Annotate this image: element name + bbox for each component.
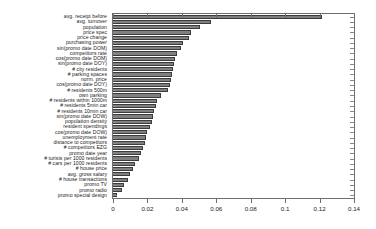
bar	[113, 25, 200, 29]
y-tick-mark	[113, 138, 117, 139]
x-tick-label: 0.04	[176, 205, 188, 212]
y-tick-mark-right	[350, 32, 354, 33]
bar	[113, 151, 141, 155]
y-tick-mark	[113, 111, 117, 112]
x-tick-mark-top	[216, 14, 217, 18]
y-tick-mark-right	[350, 132, 354, 133]
x-tick-mark-top	[147, 14, 148, 18]
x-axis-ticks-top	[112, 13, 355, 18]
y-tick-mark-right	[350, 190, 354, 191]
y-tick-mark	[113, 38, 117, 39]
bar	[113, 57, 175, 61]
y-tick-mark-right	[350, 38, 354, 39]
bar	[113, 120, 152, 124]
y-tick-mark	[113, 127, 117, 128]
y-tick-mark	[113, 174, 117, 175]
y-tick-mark	[113, 153, 117, 154]
y-tick-mark	[113, 117, 117, 118]
x-tick-label: 0	[111, 205, 114, 212]
y-tick-mark-right	[350, 180, 354, 181]
y-tick-mark-right	[350, 117, 354, 118]
bar	[113, 104, 156, 108]
y-tick-mark-right	[350, 90, 354, 91]
y-tick-mark-right	[350, 85, 354, 86]
y-tick-mark-right	[350, 148, 354, 149]
x-tick-mark-top	[354, 14, 355, 18]
y-tick-mark	[113, 48, 117, 49]
y-tick-mark-right	[350, 106, 354, 107]
bar	[113, 125, 150, 129]
y-tick-mark	[113, 169, 117, 170]
bar	[113, 62, 174, 66]
y-tick-mark-right	[350, 48, 354, 49]
x-tick-mark	[354, 199, 355, 203]
feature-importance-chart: avg. receipt beforeavg. turnoverpopulati…	[0, 0, 376, 229]
y-tick-mark-right	[350, 195, 354, 196]
y-tick-mark	[113, 32, 117, 33]
bar	[113, 51, 177, 55]
y-tick-mark-right	[350, 111, 354, 112]
y-tick-mark-right	[350, 69, 354, 70]
x-tick-label: 0.14	[348, 205, 360, 212]
x-tick-label: 0.1	[281, 205, 290, 212]
y-tick-mark	[113, 64, 117, 65]
y-tick-mark	[113, 95, 117, 96]
y-tick-mark-right	[350, 101, 354, 102]
bar	[113, 141, 145, 145]
x-tick-mark-top	[251, 14, 252, 18]
x-tick-mark-top	[113, 14, 114, 18]
y-tick-mark-right	[350, 53, 354, 54]
y-tick-mark	[113, 22, 117, 23]
y-tick-mark	[113, 132, 117, 133]
y-tick-mark-right	[350, 122, 354, 123]
y-tick-mark	[113, 195, 117, 196]
bar	[113, 67, 173, 71]
y-tick-mark	[113, 180, 117, 181]
y-axis-label: promo special design	[58, 193, 107, 198]
x-tick-mark-top	[320, 14, 321, 18]
x-tick-mark	[113, 199, 114, 203]
bar	[113, 114, 153, 118]
y-tick-mark-right	[350, 27, 354, 28]
y-axis-labels: avg. receipt beforeavg. turnoverpopulati…	[0, 14, 110, 198]
y-tick-mark	[113, 43, 117, 44]
y-tick-mark-right	[350, 74, 354, 75]
y-tick-mark-right	[350, 95, 354, 96]
x-axis-ticks: 00.020.040.060.080.10.120.14	[112, 199, 355, 219]
y-tick-mark	[113, 85, 117, 86]
x-tick-mark	[216, 199, 217, 203]
y-tick-mark	[113, 185, 117, 186]
x-tick-label: 0.12	[314, 205, 326, 212]
y-tick-mark	[113, 74, 117, 75]
y-tick-mark-right	[350, 80, 354, 81]
y-tick-mark-right	[350, 143, 354, 144]
bar	[113, 78, 171, 82]
bar	[113, 20, 211, 24]
y-tick-mark	[113, 90, 117, 91]
x-tick-mark	[285, 199, 286, 203]
x-tick-mark	[147, 199, 148, 203]
y-tick-mark-right	[350, 138, 354, 139]
y-tick-mark	[113, 164, 117, 165]
bars-layer	[113, 14, 354, 198]
y-tick-mark	[113, 80, 117, 81]
y-tick-mark	[113, 190, 117, 191]
y-tick-mark	[113, 59, 117, 60]
bar	[113, 146, 143, 150]
y-tick-mark-right	[350, 59, 354, 60]
y-tick-mark	[113, 106, 117, 107]
y-tick-mark-right	[350, 169, 354, 170]
y-tick-mark-right	[350, 64, 354, 65]
x-tick-mark	[320, 199, 321, 203]
x-tick-label: 0.06	[210, 205, 222, 212]
x-tick-mark	[251, 199, 252, 203]
x-tick-mark-top	[285, 14, 286, 18]
bar	[113, 99, 157, 103]
y-tick-mark	[113, 122, 117, 123]
bar	[113, 36, 189, 40]
y-tick-mark	[113, 27, 117, 28]
bar	[113, 83, 170, 87]
x-tick-label: 0.08	[245, 205, 257, 212]
y-tick-mark-right	[350, 174, 354, 175]
bar	[113, 93, 161, 97]
